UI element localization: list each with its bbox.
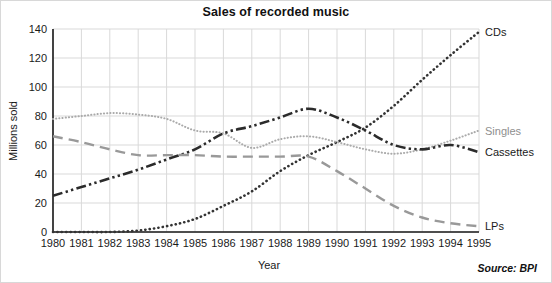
axis-lines [53,29,479,232]
x-tick-label: 1986 [211,237,235,249]
x-tick-label: 1993 [410,237,434,249]
x-axis-tick-labels: 1980198119821983198419851986198719881989… [41,237,491,249]
chart-plot: 020406080100120140 198019811982198319841… [1,1,552,283]
series-label-cds: CDs [485,26,507,38]
x-tick-label: 1981 [69,237,93,249]
y-axis-title: Millions sold [7,101,19,161]
x-tick-label: 1995 [467,237,491,249]
x-tick-label: 1991 [353,237,377,249]
chart-container: Sales of recorded music 0204060801001201… [1,1,551,282]
y-tick-label: 20 [35,197,47,209]
x-tick-label: 1994 [438,237,462,249]
series-label-cassettes: Cassettes [485,146,534,158]
y-tick-label: 40 [35,168,47,180]
series-label-singles: Singles [485,125,522,137]
x-tick-label: 1990 [325,237,349,249]
x-tick-label: 1989 [296,237,320,249]
series-label-lps: LPs [485,220,504,232]
series-lines [53,32,479,232]
y-tick-label: 140 [29,23,47,35]
x-tick-label: 1980 [41,237,65,249]
x-tick-label: 1992 [382,237,406,249]
series-line-singles [53,113,479,154]
x-tick-label: 1984 [154,237,178,249]
x-tick-label: 1983 [126,237,150,249]
y-tick-label: 120 [29,52,47,64]
y-axis-tick-labels: 020406080100120140 [29,23,47,238]
x-tick-label: 1987 [240,237,264,249]
x-tick-label: 1982 [98,237,122,249]
series-line-cds [53,32,479,232]
x-axis-title: Year [258,259,281,271]
x-tick-label: 1985 [183,237,207,249]
source-note: Source: BPI [477,262,537,274]
y-tick-label: 80 [35,110,47,122]
gridlines [53,29,479,232]
x-tick-label: 1988 [268,237,292,249]
series-labels: CDsSinglesCassettesLPs [485,26,534,232]
y-tick-label: 100 [29,81,47,93]
y-tick-label: 60 [35,139,47,151]
